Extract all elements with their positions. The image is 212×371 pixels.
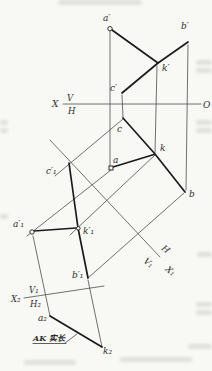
label-a: a xyxy=(113,155,118,165)
segment-bc-v-view xyxy=(122,42,188,93)
point-marker-k1 xyxy=(77,227,81,231)
label-c-prime: c′ xyxy=(110,83,117,93)
point-marker-a-prime xyxy=(108,27,112,31)
aux2-ray-k xyxy=(88,280,102,347)
segment-ak-aux1-view xyxy=(34,228,76,231)
label-axis-x: X xyxy=(51,99,59,109)
projector-k xyxy=(155,66,157,153)
label-a1-prime: a′₁ xyxy=(13,219,24,229)
thick-segment-lines xyxy=(34,30,188,347)
label-aux2-axis-h2: H₂ xyxy=(29,299,41,309)
label-b: b xyxy=(189,189,195,199)
segment-ak-h-view xyxy=(113,155,154,168)
point-markers xyxy=(30,27,113,235)
aux1-ray-a xyxy=(27,170,111,236)
label-aux2-axis-v1: V₁ xyxy=(29,285,39,295)
label-k-prime: k′ xyxy=(162,63,170,73)
label-aux1-axis-h: H xyxy=(159,242,172,255)
label-aux1-axis-x1: X₁ xyxy=(163,263,177,277)
label-b-prime: b′ xyxy=(181,21,189,31)
projection-diagram: a′ b′ k′ c′ X V H O c a k b c′₁ a′₁ k′₁ … xyxy=(0,0,212,371)
projector-b xyxy=(186,45,188,190)
label-c: c xyxy=(117,124,122,134)
label-a-prime: a′ xyxy=(103,13,110,23)
label-axis-v: V xyxy=(67,93,74,103)
label-axis-o: O xyxy=(203,100,211,110)
label-aux1-axis-v1: V₁ xyxy=(142,256,156,270)
label-ak-true-length: AK 实长 xyxy=(32,333,66,343)
point-marker-a xyxy=(109,166,113,170)
label-axis-h: H xyxy=(67,106,76,116)
projector-c xyxy=(122,95,123,117)
segment-ak-v-view xyxy=(112,30,158,63)
annotation-leader-line xyxy=(65,334,77,343)
label-k1-prime: k′₁ xyxy=(83,226,94,236)
label-b1-prime: b′₁ xyxy=(72,270,83,280)
label-k2: k₂ xyxy=(103,346,112,356)
scanned-textbook-figure: a′ b′ k′ c′ X V H O c a k b c′₁ a′₁ k′₁ … xyxy=(0,0,212,371)
labels: a′ b′ k′ c′ X V H O c a k b c′₁ a′₁ k′₁ … xyxy=(10,13,211,356)
thin-construction-lines xyxy=(24,31,201,347)
label-c1-prime: c′₁ xyxy=(46,166,57,176)
label-a2: a₂ xyxy=(38,313,47,323)
point-marker-a1 xyxy=(30,230,34,234)
label-k: k xyxy=(160,143,165,153)
label-aux2-axis-x2: X₂ xyxy=(10,294,21,304)
